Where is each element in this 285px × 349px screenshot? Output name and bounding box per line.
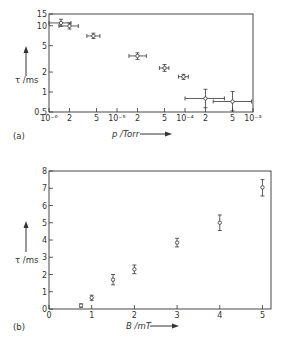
marker-circle-icon: [182, 75, 185, 78]
x-tick-label: 2: [132, 311, 137, 320]
y-tick-label: 3: [42, 253, 47, 262]
panel-label-b: (b): [13, 322, 25, 332]
arrow-up-icon: [24, 221, 29, 252]
marker-circle-icon: [79, 304, 82, 307]
marker-circle-icon: [133, 268, 136, 271]
marker-circle-icon: [111, 278, 114, 281]
data-point: [213, 91, 251, 110]
y-tick-label: 2: [42, 68, 47, 77]
marker-circle-icon: [92, 34, 95, 37]
data-point: [79, 304, 83, 307]
x-tick-label: 4: [217, 311, 222, 320]
data-point: [178, 74, 188, 79]
y-tick-label: 5: [42, 42, 47, 51]
x-tick-label: 10⁻⁵: [108, 114, 126, 123]
data-point: [159, 64, 169, 71]
x-tick-label: 10⁻⁴: [176, 114, 194, 123]
data-point: [132, 265, 136, 274]
x-tick-label: 2: [203, 114, 208, 123]
x-axis-label-a: p /Torr: [111, 129, 140, 139]
data-points-a: [49, 19, 251, 111]
y-axis-label-a: τ /ms: [15, 75, 39, 85]
y-tick-label: 5: [42, 219, 47, 228]
y-tick-label: 1: [42, 288, 47, 297]
y-tick-label: 2: [42, 271, 47, 280]
x-tick-label: 2: [135, 114, 140, 123]
y-tick-label: 8: [42, 167, 47, 176]
data-point: [185, 89, 224, 107]
plot-frame-a: [49, 14, 253, 112]
figure: 0.51251015 10⁻⁶2510⁻⁵2510⁻⁴2510⁻³ (a) p …: [0, 0, 285, 349]
arrow-right-icon: [150, 324, 179, 329]
y-tick-label: 4: [42, 236, 47, 245]
x-tick-label: 5: [230, 114, 235, 123]
arrow-right-icon: [140, 132, 172, 137]
x-tick-label: 5: [162, 114, 167, 123]
data-point: [90, 295, 94, 300]
data-point: [260, 180, 264, 196]
y-tick-label: 7: [42, 184, 47, 193]
data-point: [218, 215, 222, 231]
data-point: [111, 275, 115, 285]
y-tick-label: 1: [42, 88, 47, 97]
x-tick-label: 3: [175, 311, 180, 320]
data-point: [175, 238, 179, 247]
marker-circle-icon: [204, 97, 207, 100]
marker-circle-icon: [90, 296, 93, 299]
chart-panel-a: 0.51251015 10⁻⁶2510⁻⁵2510⁻⁴2510⁻³ (a) p …: [13, 10, 262, 141]
data-points-b: [79, 180, 264, 308]
y-tick-label: 15: [37, 10, 47, 19]
arrow-up-icon: [24, 46, 29, 76]
x-tick-label: 2: [67, 114, 72, 123]
marker-circle-icon: [163, 66, 166, 69]
y-tick-label: 10: [37, 22, 47, 31]
x-tick-label: 5: [260, 311, 265, 320]
x-tick-label: 1: [89, 311, 94, 320]
marker-circle-icon: [231, 100, 234, 103]
x-axis-label-b: B /mT: [126, 321, 152, 331]
data-point: [129, 53, 146, 60]
x-tick-label: 5: [94, 114, 99, 123]
marker-circle-icon: [261, 186, 264, 189]
data-point: [87, 33, 100, 38]
marker-circle-icon: [68, 24, 71, 27]
x-tick-label: 0: [46, 311, 51, 320]
y-axis-label-b: τ /ms: [15, 255, 39, 265]
marker-circle-icon: [59, 21, 62, 24]
chart-panel-b: 012345678 012345 (b) B /mT τ /ms: [13, 167, 271, 332]
y-tick-label: 6: [42, 202, 47, 211]
x-tick-label: 10⁻³: [244, 114, 262, 123]
y-axis-ticks-a: 0.51251015: [34, 10, 53, 117]
x-tick-label: 10⁻⁶: [40, 114, 58, 123]
marker-circle-icon: [136, 54, 139, 57]
panel-label-a: (a): [13, 131, 25, 141]
marker-circle-icon: [218, 221, 221, 224]
x-axis-ticks-a: 10⁻⁶2510⁻⁵2510⁻⁴2510⁻³: [40, 108, 262, 123]
y-axis-ticks-b: 012345678: [42, 167, 53, 314]
marker-circle-icon: [175, 241, 178, 244]
plot-frame-b: [49, 171, 271, 309]
